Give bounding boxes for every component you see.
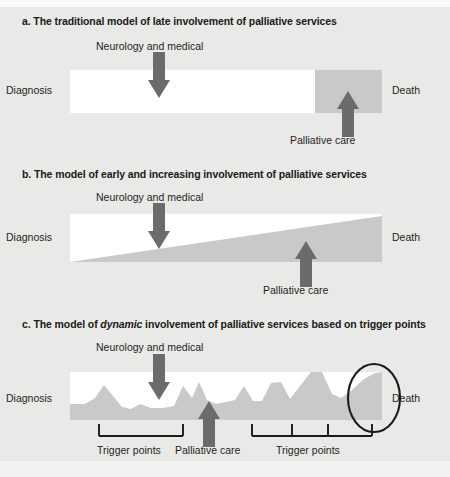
panel-c-palliative-arrow-icon — [198, 401, 220, 447]
panel-c-end-label: Death — [392, 392, 420, 404]
panel-c-graphics — [70, 354, 400, 447]
panel-b-palliative-wedge — [70, 216, 382, 262]
panel-b-title-text: The model of early and increasing involv… — [34, 168, 367, 180]
panel-a-neurology-label: Neurology and medical — [96, 40, 203, 52]
figure-graphics — [0, 0, 450, 477]
panel-a-palliative-block — [315, 70, 382, 113]
panel-a-palliative-label: Palliative care — [290, 134, 355, 146]
panel-a-palliative-arrow-icon — [337, 91, 359, 137]
scan-bottom-edge — [0, 461, 450, 477]
panel-b-end-label: Death — [392, 231, 420, 243]
panel-b-neurology-label: Neurology and medical — [96, 191, 203, 203]
panel-b-title: b. The model of early and increasing inv… — [22, 168, 367, 180]
figure-container: a. The traditional model of late involve… — [0, 0, 450, 477]
panel-c-trigger-bracket-left — [99, 424, 183, 436]
panel-c-title-part2: involvement of palliative services based… — [142, 318, 426, 330]
panel-c-palliative-label: Palliative care — [175, 444, 240, 456]
panel-a-neurology-block — [70, 70, 315, 113]
panel-c-title: c. The model of dynamic involvement of p… — [22, 318, 426, 330]
panel-c-title-letter: c. — [22, 318, 31, 330]
panel-a-graphics — [70, 52, 382, 137]
scan-top-edge — [0, 0, 450, 7]
panel-a-title: a. The traditional model of late involve… — [22, 15, 337, 27]
panel-b-palliative-arrow-icon — [295, 241, 317, 287]
panel-b-start-label: Diagnosis — [6, 231, 52, 243]
panel-c-palliative-area — [70, 372, 382, 420]
panel-c-neurology-label: Neurology and medical — [96, 341, 203, 353]
panel-c-trigger-points-left-label: Trigger points — [97, 444, 161, 456]
panel-b-neurology-area — [70, 214, 382, 262]
panel-c-trigger-bracket-right — [252, 424, 372, 436]
panel-c-neurology-arrow-icon — [148, 354, 170, 400]
panel-c-neurology-area — [70, 372, 382, 420]
panel-a-neurology-arrow-icon — [148, 52, 170, 98]
panel-a-end-label: Death — [392, 84, 420, 96]
panel-c-title-part1: The model of — [33, 318, 100, 330]
panel-c-trigger-points-right-label: Trigger points — [276, 444, 340, 456]
panel-b-palliative-label: Palliative care — [263, 284, 328, 296]
panel-c-start-label: Diagnosis — [6, 392, 52, 404]
panel-a-start-label: Diagnosis — [6, 84, 52, 96]
panel-b-neurology-arrow-icon — [148, 203, 170, 249]
panel-b-title-letter: b. — [22, 168, 31, 180]
panel-c-title-emphasis: dynamic — [100, 318, 142, 330]
panel-b-graphics — [70, 203, 382, 287]
